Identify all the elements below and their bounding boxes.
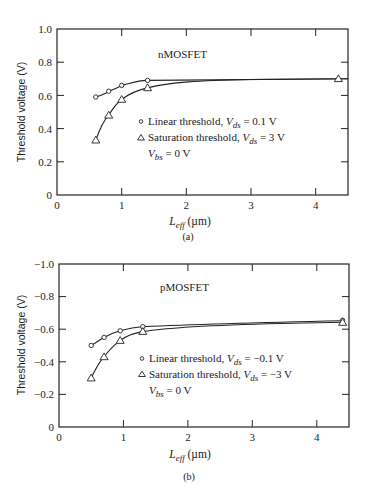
linear-threshold-curve [91, 321, 342, 346]
triangle-marker [105, 111, 113, 118]
circle-marker [94, 95, 98, 99]
panel-caption: (a) [182, 231, 193, 243]
x-axis-label: Leff (µm) [168, 215, 211, 230]
triangle-marker [116, 337, 124, 344]
y-ticks [57, 62, 348, 162]
x-ticks [122, 29, 316, 195]
legend-entry-saturation: Saturation threshold, Vds = 3 V [148, 131, 285, 146]
legend-entry-vbs: Vbs = 0 V [149, 384, 192, 399]
triangle-marker [334, 75, 342, 82]
x-tick-labels: 0 1 2 3 4 [56, 431, 320, 443]
circle-marker [107, 89, 111, 93]
circle-marker [89, 343, 93, 347]
legend-triangle-icon [138, 135, 145, 141]
circle-marker [120, 83, 124, 87]
legend: Linear threshold, Vds = 0.1 V Saturation… [138, 115, 285, 162]
y-tick-label: 0.8 [38, 56, 52, 68]
chart-title: pMOSFET [160, 281, 209, 293]
x-tick-label: 0 [54, 199, 60, 211]
legend-circle-icon [140, 357, 144, 361]
y-tick-label: 0 [49, 421, 55, 433]
triangle-marker [118, 96, 126, 103]
x-tick-label: 0 [56, 431, 62, 443]
chart-nmosfet: 0 0.2 0.4 0.6 0.8 1.0 0 1 2 3 4 Threshol… [15, 23, 348, 243]
legend-entry-linear: Linear threshold, Vds = −0.1 V [149, 352, 284, 367]
y-tick-label: −0.6 [34, 323, 54, 335]
x-ticks [123, 264, 316, 427]
chart-title: nMOSFET [158, 48, 207, 60]
x-tick-label: 4 [314, 431, 320, 443]
y-tick-label: 0.2 [38, 156, 52, 168]
y-tick-label: −0.2 [34, 388, 54, 400]
chart-pmosfet: 0 −0.2 −0.4 −0.6 −0.8 −1.0 0 1 2 3 4 Thr… [15, 258, 349, 483]
legend-entry-vbs: Vbs = 0 V [148, 147, 191, 162]
x-tick-label: 3 [250, 431, 256, 443]
legend-triangle-icon [139, 371, 146, 377]
figure: 0 0.2 0.4 0.6 0.8 1.0 0 1 2 3 4 Threshol… [0, 0, 368, 501]
legend-entry-saturation: Saturation threshold, Vds = −3 V [149, 368, 292, 383]
circle-marker [102, 335, 106, 339]
y-tick-label: −0.4 [34, 356, 54, 368]
y-tick-label: −0.8 [34, 290, 54, 302]
linear-threshold-curve [96, 79, 348, 97]
y-tick-label: 0.6 [38, 90, 52, 102]
x-tick-label: 3 [248, 199, 254, 211]
legend: Linear threshold, Vds = −0.1 V Saturatio… [139, 352, 293, 399]
x-tick-label: 4 [313, 199, 319, 211]
panel-caption: (b) [183, 471, 195, 483]
triangle-marker [87, 374, 95, 381]
y-tick-labels: 0 0.2 0.4 0.6 0.8 1.0 [38, 23, 52, 201]
x-tick-label: 1 [121, 431, 127, 443]
y-axis-label: Threshold voltage (V) [15, 62, 27, 162]
circle-marker [118, 329, 122, 333]
circle-marker [145, 78, 149, 82]
legend-circle-icon [139, 120, 143, 124]
y-tick-label: 1.0 [38, 23, 52, 35]
x-tick-label: 2 [184, 199, 190, 211]
y-tick-label: 0 [47, 189, 53, 201]
legend-entry-linear: Linear threshold, Vds = 0.1 V [148, 115, 277, 130]
x-tick-label: 1 [119, 199, 125, 211]
triangle-marker [92, 136, 100, 143]
x-tick-label: 2 [185, 431, 191, 443]
y-tick-label: 0.4 [38, 123, 52, 135]
y-tick-labels: 0 −0.2 −0.4 −0.6 −0.8 −1.0 [34, 258, 54, 433]
x-tick-labels: 0 1 2 3 4 [54, 199, 319, 211]
y-tick-label: −1.0 [34, 258, 54, 270]
x-axis-label: Leff (µm) [168, 448, 211, 463]
y-axis-label: Threshold voltage (V) [15, 295, 27, 395]
